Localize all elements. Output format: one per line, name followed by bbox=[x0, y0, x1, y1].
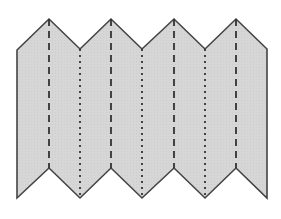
folded-paper-diagram bbox=[0, 0, 281, 219]
paper-shape bbox=[17, 19, 267, 198]
